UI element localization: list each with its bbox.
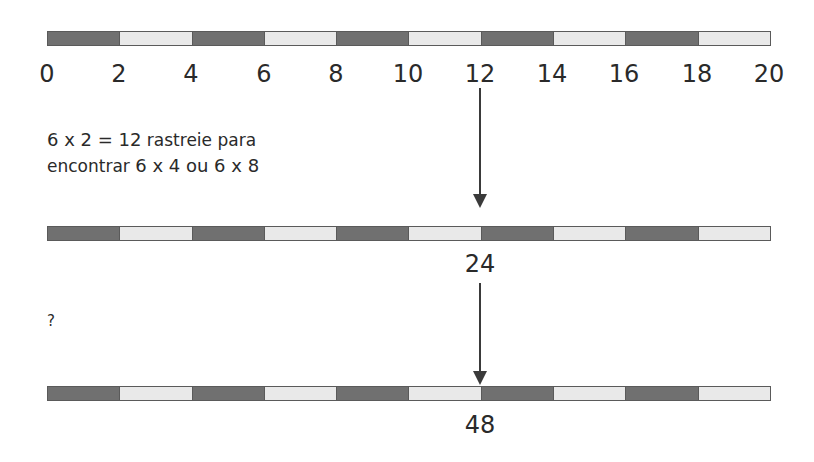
number-line-bar-3	[47, 386, 771, 401]
tick-label: 8	[306, 58, 366, 90]
annotation-line-2: encontrar 6 x 4 ou 6 x 8	[47, 153, 259, 179]
bar-segment-light	[265, 32, 337, 45]
tick-label: 16	[594, 58, 654, 90]
bar-segment-light	[409, 227, 481, 240]
number-line-bar-2	[47, 226, 771, 241]
bar-segment-light	[554, 387, 626, 400]
bar-segment-dark	[626, 32, 698, 45]
tick-label: 2	[89, 58, 149, 90]
bar-segment-light	[120, 227, 192, 240]
bar-segment-light	[120, 32, 192, 45]
bar-segment-dark	[193, 227, 265, 240]
bar-segment-dark	[337, 32, 409, 45]
bar-segment-light	[699, 32, 770, 45]
tick-label: 4	[161, 58, 221, 90]
bar-segment-light	[265, 387, 337, 400]
bar-segment-light	[409, 32, 481, 45]
bar-segment-light	[265, 227, 337, 240]
bar-segment-light	[120, 387, 192, 400]
number-line-bar-1	[47, 31, 771, 46]
bar-segment-dark	[48, 387, 120, 400]
bar-segment-dark	[48, 32, 120, 45]
annotation-text: encontrar	[47, 156, 135, 176]
down-arrow-icon	[473, 283, 487, 385]
bar-segment-light	[409, 387, 481, 400]
bar-segment-dark	[337, 387, 409, 400]
bar-segment-dark	[193, 387, 265, 400]
tick-label: 14	[522, 58, 582, 90]
bar-segment-light	[699, 227, 770, 240]
annotation-note: 6 x 2 = 12 rastreie para encontrar 6 x 4…	[47, 127, 259, 179]
down-arrow-icon	[473, 88, 487, 208]
tick-label: 20	[739, 58, 799, 90]
annotation-equation: 6 x 2 = 12	[47, 129, 141, 150]
bar-segment-dark	[626, 227, 698, 240]
tick-label: 18	[667, 58, 727, 90]
bar-segment-dark	[482, 387, 554, 400]
tick-label: 0	[17, 58, 77, 90]
annotation-line-1: 6 x 2 = 12 rastreie para	[47, 127, 259, 153]
bar-segment-light	[699, 387, 770, 400]
annotation-text: rastreie para	[141, 130, 256, 150]
annotation-equation: 6 x 4 ou 6 x 8	[135, 155, 259, 176]
tick-label: 6	[234, 58, 294, 90]
bar-segment-dark	[626, 387, 698, 400]
bar-segment-dark	[337, 227, 409, 240]
tick-label: 10	[378, 58, 438, 90]
tick-label: 12	[450, 58, 510, 90]
bar-segment-light	[554, 227, 626, 240]
question-mark: ?	[47, 311, 55, 331]
tick-labels: 0 2 4 6 8 10 12 14 16 18 20	[0, 58, 814, 90]
value-label-48: 48	[440, 410, 520, 440]
bar-segment-dark	[482, 32, 554, 45]
bar-segment-dark	[48, 227, 120, 240]
bar-segment-dark	[482, 227, 554, 240]
bar-segment-dark	[193, 32, 265, 45]
bar-segment-light	[554, 32, 626, 45]
value-label-24: 24	[440, 249, 520, 279]
